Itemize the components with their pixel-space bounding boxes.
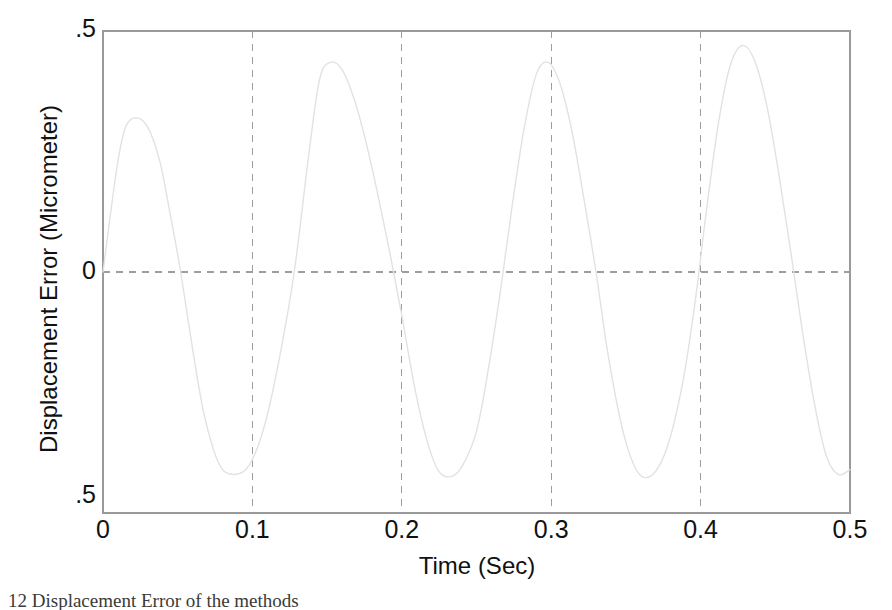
x-tick-label: 0.3 [534, 517, 569, 542]
x-tick-label: 0 [96, 517, 110, 542]
gridlines [103, 31, 850, 513]
plot-area [0, 0, 892, 610]
plot-frame [103, 31, 850, 513]
figure-container: Displacement Error (Micrometer) .5 0 .5 … [0, 0, 892, 610]
x-tick-label: 0.2 [384, 517, 419, 542]
figure-caption: 12 Displacement Error of the methods [8, 590, 888, 610]
x-tick-label: 0.1 [235, 517, 270, 542]
x-tick-label: 0.5 [833, 517, 868, 542]
x-tick-label: 0.4 [683, 517, 718, 542]
x-axis-label: Time (Sec) [357, 552, 535, 579]
series-line [103, 45, 850, 477]
x-axis-label-wrap: Time (Sec) [0, 552, 892, 580]
axes-frame [103, 31, 850, 513]
data-trace [103, 45, 850, 477]
